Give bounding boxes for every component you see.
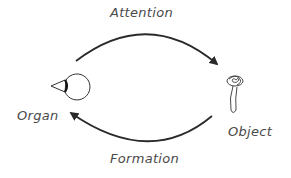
edge-label-attention: Attention bbox=[110, 5, 173, 20]
node-label-object: Object bbox=[228, 124, 272, 139]
eye-icon bbox=[51, 74, 90, 100]
flower-icon bbox=[227, 76, 243, 113]
formation-arrow bbox=[71, 113, 212, 141]
node-label-organ: Organ bbox=[17, 108, 59, 123]
edge-label-formation: Formation bbox=[110, 151, 179, 166]
attention-arrow bbox=[76, 34, 217, 64]
